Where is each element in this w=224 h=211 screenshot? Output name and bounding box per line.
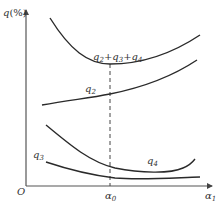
- y-axis-label: q(%): [3, 7, 27, 18]
- label-q2: q2: [85, 83, 96, 96]
- curve-q4: [46, 125, 195, 172]
- alpha0-label: α0: [105, 190, 117, 203]
- label-q3: q3: [33, 149, 44, 162]
- label-q4: q4: [147, 155, 158, 168]
- origin-label: O: [17, 186, 25, 197]
- x-axis-label: α1: [205, 190, 216, 203]
- loss-components-diagram: q(%) q2+q3+q4 q2 q3 q4 O α0 α1: [0, 0, 224, 211]
- curve-q2: [42, 60, 197, 105]
